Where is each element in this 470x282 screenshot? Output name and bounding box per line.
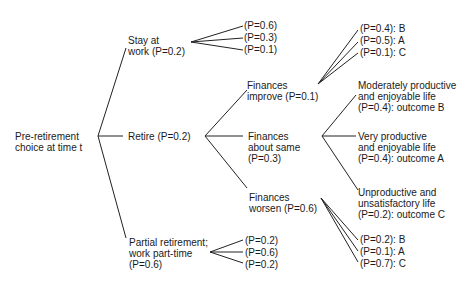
stay-outcome-2: (P=0.3) [244,32,277,43]
same-outcome-a: Very productive and enjoyable life (P=0.… [358,131,444,164]
choice-retire-label: Retire (P=0.2) [128,131,191,142]
partial-outcome-3: (P=0.2) [245,259,278,270]
partial-outcome-2: (P=0.6) [245,247,278,258]
stay-outcome-1: (P=0.6) [244,20,277,31]
improve-outcome-c: (P=0.1): C [360,47,406,58]
worsen-outcome-a: (P=0.1): A [360,246,405,257]
root-node-label: Pre-retirement choice at time t [15,131,82,153]
partial-outcome-1: (P=0.2) [245,235,278,246]
choice-partial-label: Partial retirement; work part-time (P=0.… [129,237,208,270]
finances-worsen-label: Finances worsen (P=0.6) [249,192,317,214]
improve-outcome-a: (P=0.5): A [360,35,405,46]
choice-stay-label: Stay at work (P=0.2) [128,35,185,57]
worsen-outcome-b: (P=0.2): B [360,234,405,245]
stay-outcome-3: (P=0.1) [244,44,277,55]
same-outcome-c: Unproductive and unsatisfactory life (P=… [358,187,445,220]
same-outcome-b: Moderately productive and enjoyable life… [358,80,456,113]
improve-outcome-b: (P=0.4): B [360,23,405,34]
finances-same-label: Finances about same (P=0.3) [248,131,300,164]
finances-improve-label: Finances improve (P=0.1) [247,80,318,102]
worsen-outcome-c: (P=0.7): C [360,258,406,269]
